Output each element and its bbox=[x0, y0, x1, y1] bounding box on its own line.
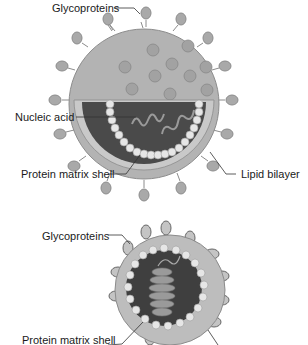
label-protein-matrix-shell-bottom: Protein matrix shell bbox=[22, 334, 116, 345]
label-glycoproteins-top: Glycoproteins bbox=[52, 2, 119, 14]
bottom-virus bbox=[109, 221, 233, 345]
label-protein-matrix-shell-top: Protein matrix shell bbox=[21, 168, 115, 180]
label-nucleic-acid: Nucleic acid bbox=[15, 111, 74, 123]
label-lipid-bilayer: Lipid bilayer bbox=[241, 168, 300, 180]
label-glycoproteins-bottom: Glycoproteins bbox=[42, 230, 109, 242]
